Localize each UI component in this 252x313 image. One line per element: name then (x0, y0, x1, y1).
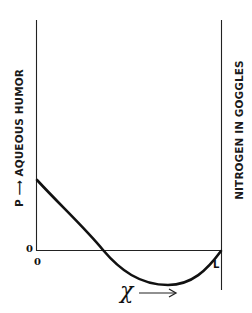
x-origin-label: 0 (34, 256, 41, 267)
x-variable-label: χ (120, 278, 133, 303)
x-end-label: L (213, 259, 219, 270)
right-boundary-label: NITROGEN IN GOGGLES (233, 60, 245, 200)
y-axis-label: P ⟶ AQUEOUS HUMOR (13, 69, 25, 207)
y-origin-label: 0 (26, 243, 33, 254)
pressure-curve (37, 180, 221, 285)
